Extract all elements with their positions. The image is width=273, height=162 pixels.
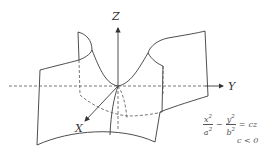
hidden-lines [79,60,163,130]
minus-sign: − [216,120,223,129]
rhs: cz [248,120,257,129]
x-exponent: 2 [209,113,213,119]
saddle-surface-diagram: Z Y X [0,0,273,162]
y-exponent: 2 [231,113,235,119]
condition: c < 0 [237,136,258,145]
a-exponent: 2 [209,126,213,132]
y-axis-label: Y [228,80,237,93]
fraction-x: x2 a2 [203,112,213,136]
surface-outline [37,31,208,145]
equals-sign: = [239,120,246,129]
x-axis-label: X [74,122,84,135]
fraction-y: y2 b2 [226,112,236,136]
equation: x2 a2 − y2 b2 =cz [203,112,260,136]
b-exponent: 2 [232,126,236,132]
z-axis-label: Z [111,10,120,23]
